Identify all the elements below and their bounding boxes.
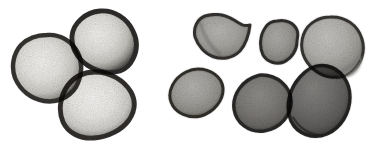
grain-dark-round (234, 75, 291, 131)
grain-top-center-pale (72, 11, 136, 72)
grain-micrograph-figure: Grayscale micrograph of eight rounded gr… (0, 0, 370, 152)
grain-small-notched (261, 20, 298, 63)
grain-bottom-pale (60, 72, 134, 138)
micrograph-canvas: Grayscale micrograph of eight rounded gr… (0, 0, 370, 152)
